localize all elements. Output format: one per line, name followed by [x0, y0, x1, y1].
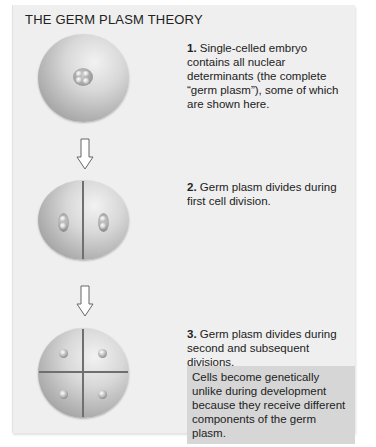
- determinant-dot: [83, 78, 89, 84]
- step-3-text: Germ plasm divides during second and sub…: [187, 328, 337, 368]
- determinant-dot: [59, 390, 68, 399]
- determinant-dot: [100, 223, 106, 229]
- diagram-title: THE GERM PLASM THEORY: [25, 12, 203, 27]
- determinant-dot: [98, 390, 107, 399]
- determinant-dot: [60, 216, 66, 222]
- step-2-text: Germ plasm divides during first cell div…: [187, 181, 337, 207]
- step-1-number: 1.: [187, 42, 197, 54]
- determinant-dot: [59, 349, 68, 358]
- determinant-dot: [100, 216, 106, 222]
- step-1-label: 1. Single-celled embryo contains all nuc…: [187, 41, 347, 111]
- step-1-text: Single-celled embryo contains all nuclea…: [187, 42, 338, 110]
- step-3-label: 3. Germ plasm divides during second and …: [187, 327, 352, 369]
- nucleus: [98, 213, 109, 232]
- nucleus: [58, 213, 69, 232]
- step-3-number: 3.: [187, 328, 197, 340]
- cell-division-line: [39, 371, 128, 373]
- down-arrow-icon: [76, 285, 94, 317]
- down-arrow-icon: [76, 138, 94, 170]
- single-cell-embryo: [38, 34, 129, 122]
- determinant-dot: [83, 71, 89, 77]
- cell-division-line: [82, 329, 84, 417]
- determinant-dot: [60, 223, 66, 229]
- step-2-label: 2. Germ plasm divides during first cell …: [187, 180, 347, 208]
- cell-division-line: [82, 181, 84, 259]
- nucleus: [73, 68, 93, 86]
- step-2-number: 2.: [187, 181, 197, 193]
- two-cell-embryo: [38, 180, 129, 260]
- determinant-dot: [76, 77, 82, 83]
- conclusion-note: Cells become genetically unlike during d…: [187, 366, 355, 444]
- determinant-dot: [98, 349, 107, 358]
- four-cell-embryo: [38, 328, 129, 418]
